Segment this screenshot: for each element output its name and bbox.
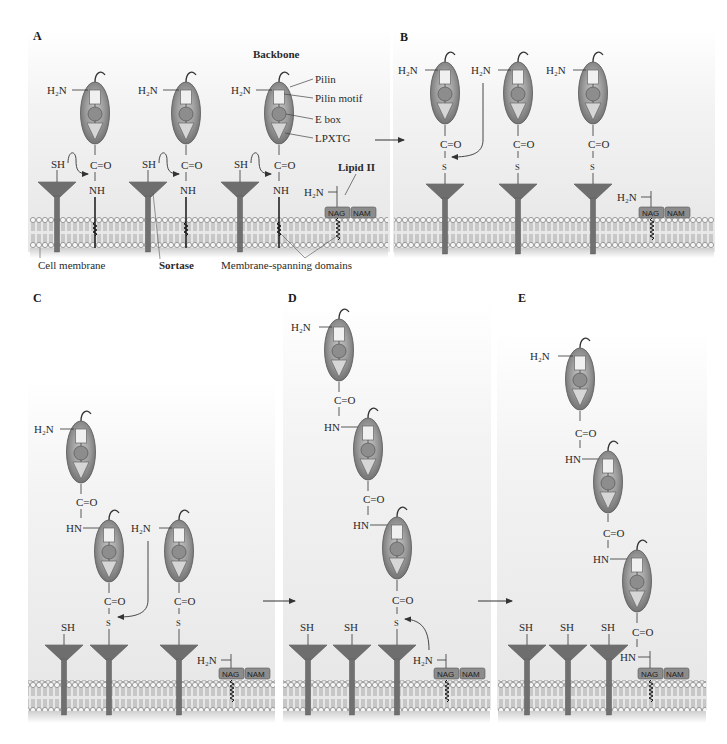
carbonyl-label: C=O bbox=[392, 594, 414, 606]
carbonyl-label: C=O bbox=[334, 394, 356, 406]
carbonyl-label: C=O bbox=[274, 159, 296, 171]
carbonyl-label: C=O bbox=[181, 159, 203, 171]
carbonyl-label: C=O bbox=[174, 595, 196, 607]
legend-pilin-motif: Pilin motif bbox=[315, 92, 363, 104]
nam-label: NAM bbox=[247, 670, 265, 679]
nh-label: NH bbox=[273, 184, 289, 196]
amino-group-label: H₂N bbox=[413, 654, 433, 666]
panel-letter-a: A bbox=[33, 29, 42, 43]
membrane-spanning-label: Membrane-spanning domains bbox=[221, 259, 352, 271]
amino-group-label: H₂N bbox=[47, 84, 67, 96]
carbonyl-label: C=O bbox=[603, 527, 625, 539]
amino-group-label: H₂N bbox=[138, 84, 158, 96]
carbonyl-label: C=O bbox=[90, 159, 112, 171]
nam-label: NAM bbox=[462, 670, 480, 679]
carbonyl-label: C=O bbox=[76, 496, 98, 508]
thiol-label: SH bbox=[51, 158, 65, 170]
legend-lpxtg: LPXTG bbox=[315, 132, 351, 144]
cell-membrane-label: Cell membrane bbox=[38, 259, 106, 271]
amino-group-label: H₂N bbox=[291, 321, 311, 333]
amino-group-label: H₂N bbox=[471, 64, 491, 76]
hn-label: HN bbox=[353, 519, 369, 531]
amino-group-label: H₂N bbox=[231, 84, 251, 96]
thiol-label: SH bbox=[344, 621, 358, 633]
sortase-label: Sortase bbox=[159, 259, 194, 271]
carbonyl-label: C=O bbox=[363, 493, 385, 505]
thiol-label: SH bbox=[234, 158, 248, 170]
sulfur-label: S bbox=[106, 618, 111, 628]
cell-membrane-a bbox=[30, 217, 388, 258]
hn-label: HN bbox=[324, 421, 340, 433]
amino-group-label: H₂N bbox=[398, 64, 418, 76]
lipid-ii-label: Lipid II bbox=[338, 161, 375, 173]
hn-label: HN bbox=[593, 553, 609, 565]
legend-pilin: Pilin bbox=[315, 73, 336, 85]
nag-label: NAG bbox=[222, 670, 239, 679]
nam-label: NAM bbox=[666, 670, 684, 679]
cell-membrane-b bbox=[394, 217, 714, 258]
sulfur-label: S bbox=[176, 618, 181, 628]
panel-letter-e: E bbox=[518, 291, 526, 305]
thiol-label: SH bbox=[300, 621, 314, 633]
carbonyl-label: C=O bbox=[513, 138, 535, 150]
sulfur-label: S bbox=[515, 162, 520, 172]
thiol-label: SH bbox=[61, 621, 75, 633]
nh-label: NH bbox=[180, 184, 196, 196]
nag-label: NAG bbox=[641, 670, 658, 679]
thiol-label: SH bbox=[142, 158, 156, 170]
carbonyl-label: C=O bbox=[440, 138, 462, 150]
carbonyl-label: C=O bbox=[588, 138, 610, 150]
nh-label: NH bbox=[89, 184, 105, 196]
pilus-assembly-diagram: A Backbone H₂N C=O NH SH H₂N C=O NH SH bbox=[0, 0, 727, 744]
amino-group-label: H₂N bbox=[546, 64, 566, 76]
carbonyl-label: C=O bbox=[104, 595, 126, 607]
nam-label: NAM bbox=[667, 209, 685, 218]
carbonyl-label: C=O bbox=[575, 427, 597, 439]
legend-e-box: E box bbox=[315, 113, 341, 125]
thiol-label: SH bbox=[519, 621, 533, 633]
thiol-label: SH bbox=[560, 621, 574, 633]
panel-letter-d: D bbox=[288, 291, 297, 305]
amino-group-label: H₂N bbox=[617, 191, 637, 203]
sulfur-label: S bbox=[394, 618, 399, 628]
nag-label: NAG bbox=[328, 209, 345, 218]
amino-group-label: H₂N bbox=[304, 186, 324, 198]
panel-letter-b: B bbox=[400, 30, 408, 44]
amino-group-label: H₂N bbox=[197, 654, 217, 666]
thiol-label: SH bbox=[601, 621, 615, 633]
sulfur-label: S bbox=[590, 162, 595, 172]
sulfur-label: S bbox=[442, 162, 447, 172]
panel-letter-c: C bbox=[33, 291, 42, 305]
amino-group-label: H₂N bbox=[530, 350, 550, 362]
hn-label: HN bbox=[565, 453, 581, 465]
amino-group-label: H₂N bbox=[131, 522, 151, 534]
backbone-label: Backbone bbox=[253, 48, 300, 60]
carbonyl-label: C=O bbox=[632, 626, 654, 638]
nag-label: NAG bbox=[642, 209, 659, 218]
hn-label: HN bbox=[620, 651, 636, 663]
amino-group-label: H₂N bbox=[34, 423, 54, 435]
hn-label: HN bbox=[66, 522, 82, 534]
nam-label: NAM bbox=[353, 209, 371, 218]
nag-label: NAG bbox=[437, 670, 454, 679]
cell-membrane-d bbox=[283, 680, 490, 723]
